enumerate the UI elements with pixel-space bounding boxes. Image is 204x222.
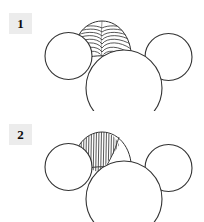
panel-1-artwork xyxy=(0,0,204,111)
figure-panel-2: 2 xyxy=(0,111,204,222)
left-circle-2 xyxy=(45,144,92,191)
panel-2-artwork xyxy=(0,111,204,222)
figure-sheet: 1 xyxy=(0,0,204,222)
figure-panel-1: 1 xyxy=(0,0,204,111)
left-circle-1 xyxy=(45,33,92,80)
